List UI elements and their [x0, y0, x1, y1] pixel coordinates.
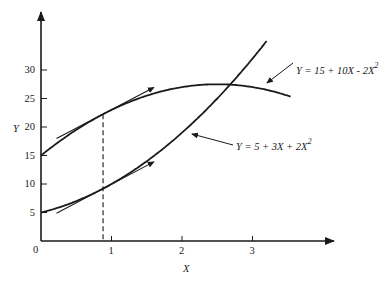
- x-tick-label: 3: [250, 246, 255, 257]
- lower-curve-label: Y = 5 + 3X + 2X2: [236, 139, 311, 152]
- upper-curve-equation: Y = 15 + 10X - 2X: [296, 65, 374, 76]
- upper-label-leader: [267, 63, 293, 83]
- x-axis-label: X: [183, 264, 189, 275]
- y-tick-label: 10: [15, 179, 35, 190]
- lower-curve: [41, 41, 267, 213]
- exponent: 2: [307, 137, 311, 146]
- y-tick-label: 25: [15, 94, 35, 105]
- x-tick-label: 2: [179, 246, 184, 257]
- y-axis-label: Y: [13, 124, 19, 135]
- exponent: 2: [374, 61, 378, 70]
- lower-tangent-arrow: [57, 162, 154, 213]
- y-tick-label: 5: [15, 208, 35, 219]
- annotations: [57, 63, 293, 241]
- upper-tangent-arrow: [57, 88, 154, 139]
- lower-curve-equation: Y = 5 + 3X + 2X: [236, 141, 307, 152]
- y-tick-label: 15: [15, 151, 35, 162]
- y-tick-label: 30: [15, 65, 35, 76]
- lower-label-leader: [192, 134, 233, 145]
- upper-curve-label: Y = 15 + 10X - 2X2: [296, 63, 378, 76]
- chart-canvas: [0, 0, 385, 285]
- origin-label: 0: [33, 245, 38, 256]
- x-tick-label: 1: [109, 246, 114, 257]
